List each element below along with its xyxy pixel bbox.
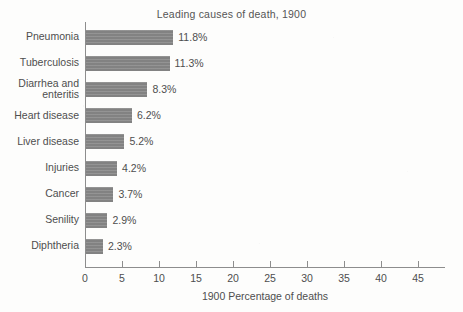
bar bbox=[86, 82, 147, 97]
y-axis-category-labels: PneumoniaTuberculosisDiarrhea andenterit… bbox=[0, 22, 79, 268]
x-axis-tick-mark bbox=[159, 261, 160, 267]
category-label: Cancer bbox=[0, 188, 79, 200]
x-axis-tick-label: 40 bbox=[366, 272, 396, 284]
x-axis-tick-label: 25 bbox=[255, 272, 285, 284]
x-axis-tick-mark bbox=[196, 261, 197, 267]
bar bbox=[86, 213, 107, 228]
bar bbox=[86, 161, 117, 176]
category-label: Diphtheria bbox=[0, 240, 79, 252]
category-label: Heart disease bbox=[0, 110, 79, 122]
bar-value-label: 3.7% bbox=[118, 188, 142, 200]
x-axis-tick-mark bbox=[307, 261, 308, 267]
x-axis-tick-mark bbox=[122, 261, 123, 267]
bar-value-label: 5.2% bbox=[129, 135, 153, 147]
bar-value-label: 2.3% bbox=[108, 240, 132, 252]
x-axis-tick-mark bbox=[418, 261, 419, 267]
category-label-line: enteritis bbox=[0, 89, 79, 101]
x-axis-tick-label: 20 bbox=[218, 272, 248, 284]
category-label: Tuberculosis bbox=[0, 57, 79, 69]
chart-figure: Leading causes of death, 1900 PneumoniaT… bbox=[0, 0, 463, 312]
bar-row: 4.2% bbox=[86, 161, 446, 176]
category-label: Liver disease bbox=[0, 136, 79, 148]
x-axis-tick-label: 15 bbox=[181, 272, 211, 284]
category-label-line: Tuberculosis bbox=[0, 57, 79, 69]
bar-value-label: 2.9% bbox=[112, 214, 136, 226]
category-label-line: Diphtheria bbox=[0, 240, 79, 252]
bar-row: 6.2% bbox=[86, 108, 446, 123]
x-axis-tick-label: 10 bbox=[144, 272, 174, 284]
x-axis-tick-mark bbox=[381, 261, 382, 267]
x-axis-tick-mark bbox=[344, 261, 345, 267]
x-axis-tick-label: 45 bbox=[403, 272, 433, 284]
bar-row: 11.8% bbox=[86, 30, 446, 45]
category-label-line: Heart disease bbox=[0, 110, 79, 122]
category-label-line: Liver disease bbox=[0, 136, 79, 148]
bar-value-label: 6.2% bbox=[137, 109, 161, 121]
category-label-line: Senility bbox=[0, 214, 79, 226]
bar bbox=[86, 108, 132, 123]
bar-row: 8.3% bbox=[86, 82, 446, 97]
category-label: Injuries bbox=[0, 162, 79, 174]
bar-row: 11.3% bbox=[86, 56, 446, 71]
x-axis-title: 1900 Percentage of deaths bbox=[85, 290, 445, 302]
x-axis-line bbox=[85, 267, 445, 268]
bar bbox=[86, 30, 173, 45]
category-label: Diarrhea andenteritis bbox=[0, 78, 79, 101]
chart-title: Leading causes of death, 1900 bbox=[0, 8, 463, 20]
bar-row: 5.2% bbox=[86, 134, 446, 149]
bar-row: 2.3% bbox=[86, 239, 446, 254]
category-label-line: Pneumonia bbox=[0, 31, 79, 43]
bar bbox=[86, 187, 113, 202]
bar-row: 3.7% bbox=[86, 187, 446, 202]
x-axis-tick-mark bbox=[233, 261, 234, 267]
plot-area: 11.8%11.3%8.3%6.2%5.2%4.2%3.7%2.9%2.3%05… bbox=[85, 22, 445, 268]
x-axis-tick-label: 30 bbox=[292, 272, 322, 284]
x-axis-tick-label: 35 bbox=[329, 272, 359, 284]
bar-row: 2.9% bbox=[86, 213, 446, 228]
bar-value-label: 11.3% bbox=[175, 57, 204, 69]
x-axis-tick-mark bbox=[270, 261, 271, 267]
category-label: Pneumonia bbox=[0, 31, 79, 43]
bar bbox=[86, 56, 170, 71]
bar bbox=[86, 239, 103, 254]
bar-value-label: 4.2% bbox=[122, 162, 146, 174]
category-label-line: Cancer bbox=[0, 188, 79, 200]
x-axis-tick-label: 0 bbox=[70, 272, 100, 284]
x-axis-tick-label: 5 bbox=[107, 272, 137, 284]
category-label-line: Injuries bbox=[0, 162, 79, 174]
category-label: Senility bbox=[0, 214, 79, 226]
bar bbox=[86, 134, 124, 149]
bar-value-label: 11.8% bbox=[178, 31, 207, 43]
bar-value-label: 8.3% bbox=[152, 83, 176, 95]
